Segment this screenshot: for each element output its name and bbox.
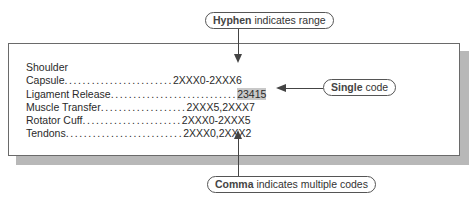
single-arrow-line [285,88,323,89]
hyphen-arrow-line [238,29,239,55]
entry-term: Rotator Cuff [26,114,82,126]
entry-code: 2XXX5,2XXX7 [187,101,255,113]
callout-hyphen-text: indicates range [252,14,326,26]
index-entry-ligament-release: Ligament Release........................… [26,88,266,101]
callout-hyphen-bold: Hyphen [213,14,252,26]
callout-comma-text: indicates multiple codes [254,178,368,190]
index-entry-muscle-transfer: Muscle Transfer...................2XXX5,… [26,101,266,114]
entry-term: Tendons [26,127,66,139]
entry-code-highlighted: 23415 [237,88,266,100]
entry-term: Capsule [26,74,65,86]
entry-code: 2XXX0-2XXX5 [182,114,251,126]
entry-code: 2XXX0-2XXX6 [173,74,242,86]
callout-single: Single code [323,79,396,96]
callout-comma: Comma indicates multiple codes [207,176,376,193]
callout-single-text: code [363,81,389,93]
entry-term: Muscle Transfer [26,101,101,113]
index-entries: Shoulder Capsule........................… [26,61,266,141]
arrow-up-icon [234,130,242,139]
comma-arrow-line [238,138,239,176]
index-entry-capsule: Capsule........................2XXX0-2XX… [26,74,266,87]
index-heading: Shoulder [26,61,266,74]
leader-dots: ............................ [111,88,237,100]
arrow-down-icon [234,54,242,63]
leader-dots: ...................... [82,114,181,126]
entry-term: Ligament Release [26,88,111,100]
arrow-left-icon [276,84,286,92]
callout-comma-bold: Comma [215,178,254,190]
leader-dots: ................... [101,101,187,113]
leader-dots: ........................ [65,74,173,86]
callout-single-bold: Single [331,81,363,93]
index-entry-rotator-cuff: Rotator Cuff......................2XXX0-… [26,114,266,127]
index-entry-tendons: Tendons..........................2XXX0,2… [26,127,266,140]
callout-hyphen: Hyphen indicates range [205,12,334,29]
leader-dots: .......................... [66,127,183,139]
